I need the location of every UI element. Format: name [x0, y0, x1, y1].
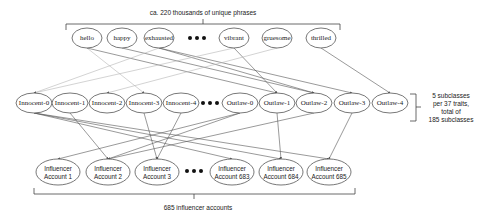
phrase-node: exhausted [144, 28, 174, 48]
subclass-label: Innocent-1 [55, 99, 86, 107]
subclass-node: Outlaw-1 [259, 93, 295, 113]
edge-phrase-to-subclass [34, 48, 234, 93]
subclass-node: Outlaw-0 [222, 93, 258, 113]
edge-subclass-to-account [58, 113, 240, 159]
bottom-annotation: 685 influencer accounts [164, 204, 233, 211]
account-node: InfluencerAccount 3 [135, 159, 179, 185]
edge-subclass-to-account [157, 113, 181, 159]
edge-subclass-to-account [329, 113, 352, 159]
account-label-line-1: Influencer [218, 165, 246, 172]
subclass-label: Outlaw-4 [377, 99, 404, 107]
account-node: InfluencerAccount 684 [259, 159, 303, 185]
edge-subclass-to-account [70, 113, 108, 159]
phrase-node: hello [72, 28, 102, 48]
subclass-label: Outlaw-2 [301, 99, 328, 107]
right-annotation-line-4: 185 subclasses [429, 116, 475, 123]
top-annotation: ca. 220 thousands of unique phrases [150, 9, 257, 17]
account-label-line-1: Influencer [94, 165, 122, 172]
subclass-node: Innocent-2 [89, 93, 125, 113]
subclass-node: Innocent-1 [52, 93, 88, 113]
edge-phrase-to-subclass [234, 48, 277, 93]
subclass-node: Innocent-3 [126, 93, 162, 113]
phrase-label: hello [80, 34, 94, 42]
edge-subclass-to-account [34, 113, 232, 159]
edge-subclass-to-account [34, 113, 329, 159]
phrase-label: vibrant [224, 34, 244, 42]
subclass-node: Outlaw-2 [296, 93, 332, 113]
account-label-line-2: Account 3 [143, 173, 172, 180]
edge-subclass-to-account [108, 113, 240, 159]
subclass-label: Innocent-3 [129, 99, 160, 107]
account-node: InfluencerAccount 2 [86, 159, 130, 185]
phrase-label: happy [113, 34, 131, 42]
edge-subclass-to-account [34, 113, 281, 159]
phrase-label: thrilled [311, 34, 332, 42]
account-label-line-2: Account 1 [44, 173, 73, 180]
edge-phrase-to-subclass [321, 48, 390, 93]
phrase-label: exhausted [145, 34, 173, 42]
subclass-label: Outlaw-3 [339, 99, 366, 107]
account-label-line-2: Account 683 [214, 173, 250, 180]
account-node: InfluencerAccount 1 [36, 159, 80, 185]
subclass-node: Innocent-4 [163, 93, 199, 113]
phrase-node: gruesome [262, 28, 292, 48]
subclass-label: Innocent-0 [19, 99, 50, 107]
account-label-line-1: Influencer [267, 165, 295, 172]
diagram-canvas: ca. 220 thousands of unique phrases hell… [0, 0, 485, 222]
account-node: InfluencerAccount 683 [210, 159, 254, 185]
bottom-bracket [34, 188, 355, 199]
subclass-node: Outlaw-4 [372, 93, 408, 113]
account-node: InfluencerAccount 685 [307, 159, 351, 185]
edge-subclass-to-account [144, 113, 157, 159]
ellipsis-icon-subclasses [201, 101, 219, 105]
right-annotation-line-2: per 37 traits, [433, 100, 469, 108]
phrase-label: gruesome [263, 34, 290, 42]
phrase-node: thrilled [306, 28, 336, 48]
subclass-label: Outlaw-0 [227, 99, 254, 107]
ellipsis-icon-accounts [185, 169, 203, 173]
subclass-node: Innocent-0 [16, 93, 52, 113]
account-label-line-2: Account 684 [263, 173, 299, 180]
top-bracket [66, 19, 340, 30]
subclass-label: Outlaw-1 [264, 99, 291, 107]
edge-phrase-to-subclass [34, 48, 159, 93]
phrase-node: happy [107, 28, 137, 48]
right-annotation-line-3: total of [441, 108, 461, 115]
edge-subclass-to-account [277, 113, 281, 159]
right-annotation-line-1: 5 subclasses [432, 92, 470, 99]
account-label-line-1: Influencer [143, 165, 171, 172]
account-label-line-1: Influencer [315, 165, 343, 172]
subclass-node: Outlaw-3 [334, 93, 370, 113]
phrase-node: vibrant [219, 28, 249, 48]
account-label-line-2: Account 685 [311, 173, 347, 180]
right-bracket [410, 94, 421, 121]
edge-phrase-to-subclass [107, 48, 277, 93]
edge-phrase-to-subclass [122, 48, 314, 93]
account-label-line-1: Influencer [44, 165, 72, 172]
subclass-label: Innocent-4 [166, 99, 197, 107]
ellipsis-icon-phrases [188, 36, 206, 40]
account-label-line-2: Account 2 [94, 173, 123, 180]
subclass-label: Innocent-2 [92, 99, 123, 107]
